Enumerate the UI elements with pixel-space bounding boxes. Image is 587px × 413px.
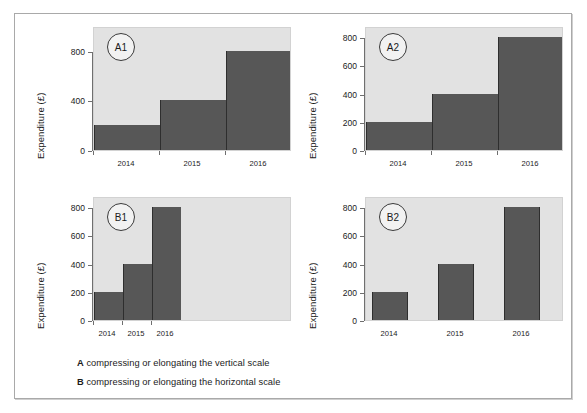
- x-tick-label-a1-2015: 2015: [184, 159, 201, 168]
- y-tick-label-a2-200: 200: [331, 118, 357, 128]
- y-axis-line-a1: [92, 52, 93, 151]
- axis-title-y-b1: Expenditure (£): [35, 315, 46, 329]
- x-tick-b1-2: [151, 321, 152, 325]
- bar-b2-2015: [438, 264, 474, 320]
- panel-badge-a1: A1: [107, 33, 135, 61]
- panel-badge-b1: B1: [107, 203, 135, 231]
- y-tick-b1-400: [88, 265, 92, 266]
- bar-a2-2014: [366, 122, 432, 150]
- y-tick-label-b1-800: 800: [59, 203, 85, 213]
- bar-a2-2015: [432, 94, 498, 150]
- y-tick-label-b2-0: 0: [331, 316, 357, 326]
- y-tick-label-a2-600: 600: [331, 61, 357, 71]
- axis-title-y-a2: Expenditure (£): [307, 145, 318, 159]
- panel-badge-b2: B2: [379, 203, 407, 231]
- y-axis-line-b1: [92, 208, 93, 321]
- y-tick-label-b1-200: 200: [59, 288, 85, 298]
- y-tick-label-b2-400: 400: [331, 260, 357, 270]
- y-tick-label-b1-400: 400: [59, 260, 85, 270]
- y-tick-label-b2-200: 200: [331, 288, 357, 298]
- caption-a: A compressing or elongating the vertical…: [77, 358, 269, 368]
- y-tick-label-a2-800: 800: [331, 33, 357, 43]
- x-tick-a1-0: [93, 151, 94, 155]
- bar-a2-2016: [498, 37, 563, 150]
- x-tick-b1-0: [93, 321, 94, 325]
- y-tick-label-b1-0: 0: [59, 316, 85, 326]
- caption-a-key: A: [77, 358, 84, 368]
- bar-b1-2014: [94, 292, 123, 320]
- axis-title-y-b2: Expenditure (£): [307, 315, 318, 329]
- y-tick-a2-400: [360, 95, 364, 96]
- bar-b2-2016: [504, 207, 540, 320]
- y-tick-label-a1-800: 800: [59, 47, 85, 57]
- caption-b-key: B: [77, 377, 84, 387]
- x-tick-label-a2-2016: 2016: [522, 159, 539, 168]
- x-tick-a1-1: [159, 151, 160, 155]
- chart-panel-b1: Expenditure (£) 0 200 400 600 800 2014 2…: [31, 189, 293, 354]
- y-tick-a2-600: [360, 66, 364, 67]
- figure-frame: Expenditure (£) 0 400 800 2014 2015 2016…: [14, 13, 572, 399]
- x-tick-a2-2: [497, 151, 498, 155]
- caption-b-text: compressing or elongating the horizontal…: [84, 377, 281, 387]
- y-tick-a2-0: [360, 151, 364, 152]
- chart-panel-b2: Expenditure (£) 0 200 400 600 800 2014 2…: [303, 189, 565, 354]
- y-tick-b2-600: [360, 236, 364, 237]
- y-tick-label-b2-600: 600: [331, 231, 357, 241]
- y-tick-label-a2-400: 400: [331, 90, 357, 100]
- y-tick-b2-0: [360, 321, 364, 322]
- x-tick-label-b2-2016: 2016: [513, 329, 530, 338]
- panel-badge-a2: A2: [379, 33, 407, 61]
- y-tick-a1-400: [88, 101, 92, 102]
- y-tick-label-b2-800: 800: [331, 203, 357, 213]
- x-tick-label-b2-2014: 2014: [381, 329, 398, 338]
- x-tick-a2-1: [431, 151, 432, 155]
- x-tick-label-b1-2014: 2014: [99, 329, 116, 338]
- y-tick-label-a1-0: 0: [59, 146, 85, 156]
- bar-a1-2016: [226, 51, 291, 150]
- x-tick-label-a2-2014: 2014: [390, 159, 407, 168]
- x-tick-a2-0: [365, 151, 366, 155]
- bar-a1-2015: [160, 100, 226, 150]
- y-tick-label-a1-400: 400: [59, 96, 85, 106]
- y-tick-a2-200: [360, 123, 364, 124]
- y-tick-b1-600: [88, 236, 92, 237]
- x-tick-label-a1-2014: 2014: [118, 159, 135, 168]
- x-tick-a1-2: [225, 151, 226, 155]
- y-tick-label-a2-0: 0: [331, 146, 357, 156]
- x-tick-label-b1-2016: 2016: [157, 329, 174, 338]
- caption-b: B compressing or elongating the horizont…: [77, 377, 280, 387]
- x-tick-label-b2-2015: 2015: [447, 329, 464, 338]
- y-tick-b2-400: [360, 265, 364, 266]
- bar-b2-2014: [372, 292, 408, 320]
- y-tick-a1-800: [88, 52, 92, 53]
- y-tick-b1-800: [88, 208, 92, 209]
- chart-panel-a2: Expenditure (£) 0 200 400 600 800 2014 2…: [303, 19, 565, 184]
- y-tick-b1-200: [88, 293, 92, 294]
- x-tick-b1-1: [122, 321, 123, 325]
- y-tick-b2-200: [360, 293, 364, 294]
- chart-panel-a1: Expenditure (£) 0 400 800 2014 2015 2016…: [31, 19, 293, 184]
- y-tick-b2-800: [360, 208, 364, 209]
- x-tick-label-a1-2016: 2016: [250, 159, 267, 168]
- x-tick-label-a2-2015: 2015: [456, 159, 473, 168]
- bar-a1-2014: [94, 125, 160, 150]
- x-tick-label-b1-2015: 2015: [128, 329, 145, 338]
- y-tick-b1-0: [88, 321, 92, 322]
- bar-b1-2015: [123, 264, 152, 320]
- y-axis-line-a2: [364, 38, 365, 151]
- y-axis-line-b2: [364, 208, 365, 321]
- caption-a-text: compressing or elongating the vertical s…: [84, 358, 270, 368]
- y-tick-a2-800: [360, 38, 364, 39]
- bar-b1-2016: [152, 207, 181, 320]
- axis-title-y-a1: Expenditure (£): [35, 145, 46, 159]
- y-tick-label-b1-600: 600: [59, 231, 85, 241]
- y-tick-a1-0: [88, 151, 92, 152]
